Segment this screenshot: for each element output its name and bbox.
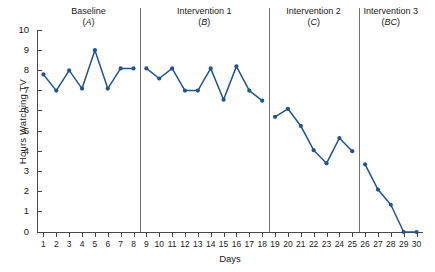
x-tick-mark (69, 232, 70, 237)
phase-name: Baseline (28, 6, 148, 17)
phase-line-3 (275, 109, 352, 164)
phase-name: Intervention 3 (331, 6, 435, 17)
x-tick-mark (249, 232, 250, 237)
x-tick-mark (236, 232, 237, 237)
y-tick-label: 6 (7, 104, 29, 116)
data-point-day-22 (312, 148, 316, 152)
x-tick-label: 30 (408, 239, 426, 249)
x-tick-mark (288, 232, 289, 237)
x-tick-mark (378, 232, 379, 237)
y-tick-label: 7 (7, 84, 29, 96)
x-tick-mark (159, 232, 160, 237)
data-point-day-16 (234, 64, 238, 68)
data-point-day-20 (286, 107, 290, 111)
x-tick-mark (339, 232, 340, 237)
phase-label-1: Baseline(A) (28, 6, 148, 28)
x-axis-title: Days (37, 253, 423, 264)
data-point-day-6 (106, 86, 110, 90)
x-tick-mark (391, 232, 392, 237)
phase-name: Intervention 1 (144, 6, 264, 17)
y-tick-label: 8 (7, 64, 29, 76)
data-point-day-5 (93, 48, 97, 52)
data-point-day-11 (170, 66, 174, 70)
x-tick-mark (365, 232, 366, 237)
plot-area: 012345678910 123456789101112131415161718… (37, 30, 423, 232)
phase-condition: (A) (28, 17, 148, 28)
x-tick-mark (108, 232, 109, 237)
phase-label-4: Intervention 3(BC) (331, 6, 435, 28)
phase-condition: (B) (144, 17, 264, 28)
y-tick-label: 0 (7, 226, 29, 238)
phase-line-1 (43, 50, 133, 90)
phase-line-2 (146, 66, 262, 100)
x-tick-mark (327, 232, 328, 237)
x-tick-mark (56, 232, 57, 237)
data-point-day-15 (221, 98, 225, 102)
data-point-day-29 (402, 230, 406, 234)
data-point-day-4 (80, 86, 84, 90)
x-tick-mark (146, 232, 147, 237)
x-tick-mark (352, 232, 353, 237)
x-tick-mark (301, 232, 302, 237)
phase-condition: (BC) (331, 17, 435, 28)
y-tick-label: 9 (7, 44, 29, 56)
x-tick-mark (95, 232, 96, 237)
x-tick-mark (314, 232, 315, 237)
y-tick-label: 5 (7, 125, 29, 137)
data-point-day-17 (247, 89, 251, 93)
x-tick-mark (262, 232, 263, 237)
y-tick-label: 3 (7, 165, 29, 177)
y-tick-label: 4 (7, 145, 29, 157)
data-point-day-23 (324, 161, 328, 165)
data-point-day-19 (273, 115, 277, 119)
data-point-day-13 (196, 89, 200, 93)
x-tick-mark (211, 232, 212, 237)
phase-line-4 (365, 164, 416, 232)
x-tick-mark (134, 232, 135, 237)
data-point-day-3 (67, 68, 71, 72)
x-tick-mark (43, 232, 44, 237)
data-point-day-21 (299, 124, 303, 128)
data-point-day-30 (414, 230, 418, 234)
data-series-line (37, 30, 423, 232)
data-point-day-10 (157, 76, 161, 80)
x-tick-mark (224, 232, 225, 237)
data-point-day-27 (376, 187, 380, 191)
data-point-day-25 (350, 149, 354, 153)
data-point-day-28 (389, 203, 393, 207)
y-tick-label: 2 (7, 185, 29, 197)
single-case-design-line-chart: Hours Watching TV 012345678910 123456789… (0, 0, 435, 272)
data-point-day-14 (209, 66, 213, 70)
data-point-day-7 (119, 66, 123, 70)
y-tick-label: 1 (7, 205, 29, 217)
x-tick-mark (185, 232, 186, 237)
phase-label-2: Intervention 1(B) (144, 6, 264, 28)
x-tick-mark (121, 232, 122, 237)
x-tick-mark (198, 232, 199, 237)
data-point-day-24 (337, 136, 341, 140)
y-tick-label: 10 (7, 24, 29, 36)
data-point-day-18 (260, 99, 264, 103)
data-point-day-1 (41, 72, 45, 76)
data-point-day-9 (144, 66, 148, 70)
x-tick-mark (82, 232, 83, 237)
x-tick-mark (275, 232, 276, 237)
data-point-day-2 (54, 89, 58, 93)
x-tick-mark (172, 232, 173, 237)
data-point-day-26 (363, 162, 367, 166)
data-point-day-8 (131, 66, 135, 70)
data-point-day-12 (183, 89, 187, 93)
